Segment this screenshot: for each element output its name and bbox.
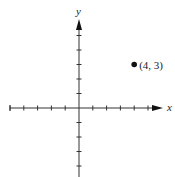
y-axis bbox=[76, 19, 82, 177]
x-axis bbox=[10, 105, 163, 111]
data-point-label: (4, 3) bbox=[139, 59, 163, 72]
y-axis-arrow-icon bbox=[76, 19, 82, 30]
y-axis-label: y bbox=[75, 5, 81, 17]
data-points: (4, 3) bbox=[131, 59, 163, 72]
data-point-dot bbox=[131, 62, 137, 68]
x-axis-arrow-icon bbox=[152, 105, 163, 111]
coordinate-plane: (4, 3) x y bbox=[0, 0, 175, 177]
x-axis-label: x bbox=[166, 101, 172, 113]
